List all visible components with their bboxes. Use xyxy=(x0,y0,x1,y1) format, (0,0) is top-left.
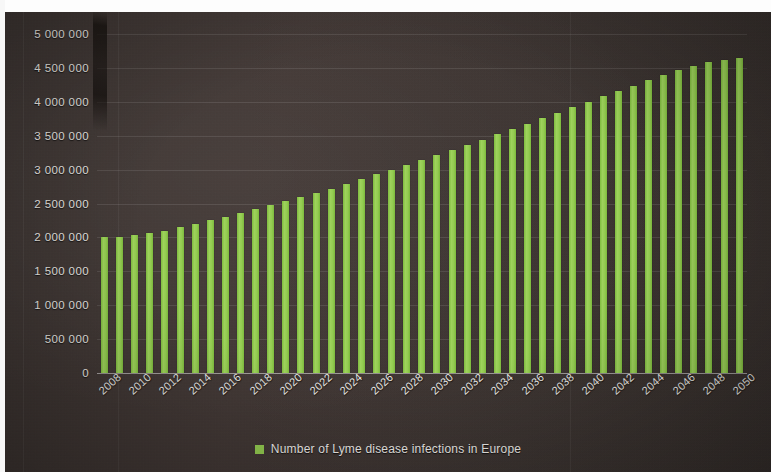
bar-column xyxy=(550,34,565,373)
bar xyxy=(297,197,304,373)
x-axis-cell: 2048 xyxy=(701,378,716,436)
x-axis-cell: 2014 xyxy=(188,378,203,436)
x-axis-cell xyxy=(716,378,731,436)
bar-column xyxy=(339,34,354,373)
bar-column xyxy=(324,34,339,373)
bar-column xyxy=(596,34,611,373)
bar-column xyxy=(157,34,172,373)
x-axis-cell xyxy=(414,378,429,436)
axis-baseline xyxy=(97,373,747,374)
bar xyxy=(449,150,456,373)
bar xyxy=(116,237,123,373)
bar-column xyxy=(701,34,716,373)
bar xyxy=(146,233,153,373)
x-axis-cell xyxy=(596,378,611,436)
bar xyxy=(101,237,108,373)
bar-column xyxy=(112,34,127,373)
bar xyxy=(645,80,652,373)
y-axis-tick-label: 2 000 000 xyxy=(34,231,89,243)
x-axis-cell xyxy=(142,378,157,436)
bar xyxy=(721,60,728,373)
bar xyxy=(267,205,274,373)
bar-column xyxy=(641,34,656,373)
bar xyxy=(282,201,289,373)
x-axis-cell: 2036 xyxy=(520,378,535,436)
bar xyxy=(388,170,395,373)
x-axis-cell xyxy=(354,378,369,436)
photo-top-border xyxy=(0,0,771,12)
x-axis: 2008201020122014201620182020202220242026… xyxy=(97,378,747,436)
bar-column xyxy=(263,34,278,373)
bar-column xyxy=(460,34,475,373)
bar-column xyxy=(565,34,580,373)
bar-column xyxy=(203,34,218,373)
bar-column xyxy=(309,34,324,373)
y-axis-tick-label: 2 500 000 xyxy=(34,198,89,210)
x-axis-cell: 2034 xyxy=(490,378,505,436)
x-axis-cell: 2010 xyxy=(127,378,142,436)
bar-column xyxy=(142,34,157,373)
x-axis-cell: 2028 xyxy=(399,378,414,436)
bar xyxy=(237,213,244,373)
x-axis-cell xyxy=(505,378,520,436)
plot-area: 0500 0001 000 0001 500 0002 000 0002 500… xyxy=(97,34,747,373)
bar xyxy=(328,189,335,373)
bar xyxy=(131,235,138,373)
bar xyxy=(222,217,229,373)
bar xyxy=(660,75,667,373)
x-axis-cell xyxy=(263,378,278,436)
y-axis-tick-label: 5 000 000 xyxy=(34,28,89,40)
bar xyxy=(464,145,471,373)
x-axis-cell xyxy=(565,378,580,436)
x-axis-cell: 2018 xyxy=(248,378,263,436)
y-axis-tick-label: 4 000 000 xyxy=(34,96,89,108)
bar-column xyxy=(97,34,112,373)
bar-column xyxy=(445,34,460,373)
screenshot-root: 0500 0001 000 0001 500 0002 000 0002 500… xyxy=(0,0,771,472)
bar xyxy=(373,174,380,373)
x-axis-cell xyxy=(384,378,399,436)
bar-column xyxy=(626,34,641,373)
bar-column xyxy=(369,34,384,373)
bar-column xyxy=(671,34,686,373)
bar-column xyxy=(535,34,550,373)
bar xyxy=(705,62,712,373)
x-axis-cell: 2022 xyxy=(309,378,324,436)
x-axis-cell xyxy=(293,378,308,436)
x-axis-cell xyxy=(233,378,248,436)
x-axis-tick-label: 2050 xyxy=(730,371,757,397)
bar-chart: 0500 0001 000 0001 500 0002 000 0002 500… xyxy=(5,12,771,472)
bar xyxy=(690,66,697,373)
bar xyxy=(161,231,168,373)
y-axis-tick-label: 1 500 000 xyxy=(34,265,89,277)
legend-label: Number of Lyme disease infections in Eur… xyxy=(271,442,521,456)
bar-column xyxy=(384,34,399,373)
bar xyxy=(358,179,365,373)
bar-series xyxy=(97,34,747,373)
bar xyxy=(539,118,546,373)
x-axis-cell xyxy=(445,378,460,436)
bar-column xyxy=(248,34,263,373)
bar-column xyxy=(233,34,248,373)
bar-column xyxy=(490,34,505,373)
bar xyxy=(418,160,425,373)
x-axis-cell: 2040 xyxy=(581,378,596,436)
bar xyxy=(615,91,622,373)
bar xyxy=(177,227,184,373)
photo-left-border xyxy=(0,0,5,472)
bar-column xyxy=(611,34,626,373)
bar xyxy=(585,102,592,373)
bar xyxy=(252,209,259,373)
x-axis-cell: 2016 xyxy=(218,378,233,436)
bar xyxy=(524,124,531,374)
x-axis-cell: 2008 xyxy=(97,378,112,436)
bar xyxy=(600,96,607,373)
bar xyxy=(569,107,576,373)
bar xyxy=(207,220,214,373)
bar xyxy=(192,224,199,373)
x-axis-cell: 2026 xyxy=(369,378,384,436)
bar xyxy=(343,184,350,373)
bar xyxy=(313,193,320,373)
bar-column xyxy=(293,34,308,373)
chart-legend: Number of Lyme disease infections in Eur… xyxy=(5,442,771,456)
